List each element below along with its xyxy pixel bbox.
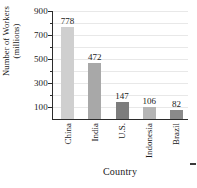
x-tick-label: China	[63, 123, 73, 145]
y-axis-title-line1: Number of Workers	[1, 0, 11, 89]
plot-area: 900700500300100 778China472India147U.S.1…	[52, 11, 188, 120]
bar: 472India	[88, 63, 101, 120]
x-tick-label: Brazil	[171, 123, 181, 145]
gridline	[53, 11, 188, 12]
x-tick-label: India	[90, 123, 100, 142]
x-tick-label: U.S.	[117, 123, 127, 139]
y-axis-title-line2: (millions)	[11, 0, 21, 89]
bar-value-label: 147	[115, 91, 129, 101]
y-tick-label: 300	[34, 78, 48, 88]
bar-value-label: 472	[88, 52, 102, 62]
x-tick-label: Indonesia	[144, 123, 154, 158]
x-axis-title: Country	[52, 166, 188, 177]
bar-value-label: 82	[172, 99, 181, 109]
y-axis-title: Number of Workers (millions)	[1, 0, 27, 89]
bar-value-label: 106	[142, 96, 156, 106]
bar: 778China	[61, 27, 74, 120]
x-axis-line	[52, 119, 188, 120]
chart-figure: Number of Workers (millions) 90070050030…	[0, 0, 197, 188]
y-tick-label: 700	[34, 30, 48, 40]
y-tick-label: 100	[34, 102, 48, 112]
page-edge-mark	[190, 163, 196, 165]
bar-value-label: 778	[61, 16, 75, 26]
y-tick-label: 500	[34, 54, 48, 64]
y-tick-label: 900	[34, 6, 48, 16]
y-axis-line	[52, 11, 53, 120]
bar: 147U.S.	[116, 102, 129, 120]
